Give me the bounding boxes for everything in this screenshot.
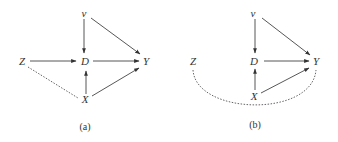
- edge-Z-X-confounded: [28, 67, 78, 98]
- node-X: X: [81, 93, 90, 105]
- node-v: v: [82, 7, 87, 19]
- node-Z: Z: [19, 55, 26, 67]
- caption-a: (a): [79, 121, 90, 133]
- edge-v-Y: [91, 18, 140, 54]
- node-D: D: [80, 55, 89, 67]
- causal-diagrams: v D Y Z X (a) v D Y Z X (b): [0, 0, 338, 142]
- edge-X-Y: [261, 68, 309, 93]
- panel-a: v D Y Z X (a): [19, 7, 151, 133]
- node-X: X: [250, 90, 259, 102]
- caption-b: (b): [249, 119, 261, 131]
- edge-X-Y: [92, 68, 139, 96]
- node-Y: Y: [143, 55, 151, 67]
- node-v: v: [251, 7, 256, 19]
- node-D: D: [249, 55, 258, 67]
- edge-v-Y: [262, 18, 310, 55]
- node-Z: Z: [190, 55, 197, 67]
- node-Y: Y: [313, 55, 321, 67]
- panel-b: v D Y Z X (b): [190, 7, 321, 131]
